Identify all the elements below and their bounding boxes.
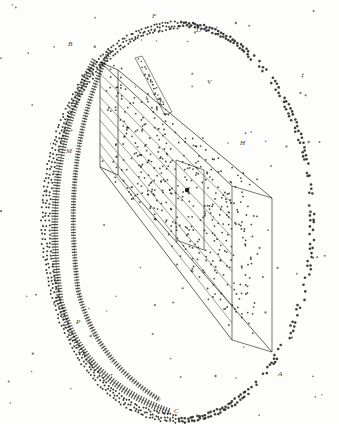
label-p: P [76, 318, 80, 326]
label-h: H [240, 139, 245, 147]
label-f: F [152, 12, 156, 20]
label-v: V [207, 78, 211, 86]
label-a: A [278, 370, 282, 378]
label-b: B [68, 40, 72, 48]
diagram-canvas [0, 0, 339, 424]
label-m: M [66, 147, 72, 155]
label-c: C [174, 407, 179, 415]
label-d: D [196, 26, 201, 34]
engraving-figure: FDBVHMACP [0, 0, 339, 424]
